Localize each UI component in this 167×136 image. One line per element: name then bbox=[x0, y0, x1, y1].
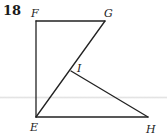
vertex-label-F: F bbox=[30, 7, 39, 20]
geometry-figure: F G I E H bbox=[0, 0, 167, 136]
vertex-label-H: H bbox=[145, 123, 156, 136]
segment-IH bbox=[71, 71, 148, 117]
vertex-label-E: E bbox=[29, 121, 38, 134]
segment-GE bbox=[36, 21, 105, 117]
vertex-label-I: I bbox=[76, 62, 82, 75]
vertex-label-G: G bbox=[104, 7, 113, 20]
